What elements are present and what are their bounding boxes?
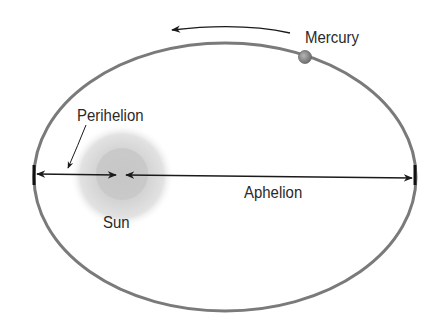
sun-core	[96, 148, 148, 200]
mercury-planet	[299, 51, 312, 64]
orbit-diagram-graphic	[0, 0, 436, 328]
aphelion-label: Aphelion	[244, 184, 302, 201]
sun-label: Sun	[103, 214, 130, 231]
perihelion-label: Perihelion	[77, 107, 144, 124]
orbit-diagram: Mercury Perihelion Aphelion Sun	[0, 0, 436, 328]
orbit-direction-arrow	[172, 27, 290, 33]
mercury-label: Mercury	[305, 29, 359, 46]
